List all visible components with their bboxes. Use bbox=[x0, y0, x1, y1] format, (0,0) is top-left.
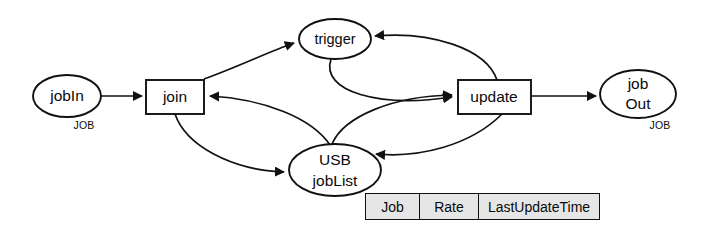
table-header-job: Job bbox=[366, 194, 419, 219]
jobout-label-line1: job bbox=[627, 75, 649, 92]
node-jobout[interactable]: job Out JOB bbox=[600, 70, 676, 131]
jobout-type-label: JOB bbox=[649, 119, 670, 131]
edge-usbjoblist-to-join bbox=[210, 96, 330, 145]
edge-update-to-usbjoblist bbox=[376, 114, 502, 155]
edge-update-to-trigger bbox=[375, 35, 497, 80]
usb-joblist-label-line1: USB bbox=[319, 151, 351, 168]
joblist-table: Job Rate LastUpdateTime bbox=[365, 193, 600, 220]
update-label: update bbox=[470, 88, 517, 105]
table-header-rate: Rate bbox=[419, 194, 478, 219]
trigger-label: trigger bbox=[314, 31, 355, 47]
edge-join-to-trigger bbox=[204, 43, 294, 79]
edge-join-to-usbjoblist bbox=[175, 114, 284, 172]
node-trigger[interactable]: trigger bbox=[299, 19, 371, 59]
node-update[interactable]: update bbox=[458, 80, 531, 114]
table-header-lastupdatetime: LastUpdateTime bbox=[478, 194, 599, 219]
diagram-canvas: jobIn JOB join trigger USB jobList updat… bbox=[0, 0, 709, 234]
jobin-label: jobIn bbox=[49, 87, 84, 104]
node-jobin[interactable]: jobIn JOB bbox=[33, 75, 101, 131]
join-label: join bbox=[162, 88, 187, 105]
edge-usbjoblist-to-update bbox=[332, 95, 452, 144]
edge-trigger-to-update bbox=[330, 59, 452, 100]
jobout-label-line2: Out bbox=[626, 95, 652, 112]
node-usb-joblist[interactable]: USB jobList bbox=[289, 144, 381, 196]
dataflow-diagram: jobIn JOB join trigger USB jobList updat… bbox=[0, 0, 709, 234]
jobin-type-label: JOB bbox=[73, 119, 94, 131]
usb-joblist-label-line2: jobList bbox=[312, 172, 358, 189]
node-join[interactable]: join bbox=[146, 80, 204, 114]
